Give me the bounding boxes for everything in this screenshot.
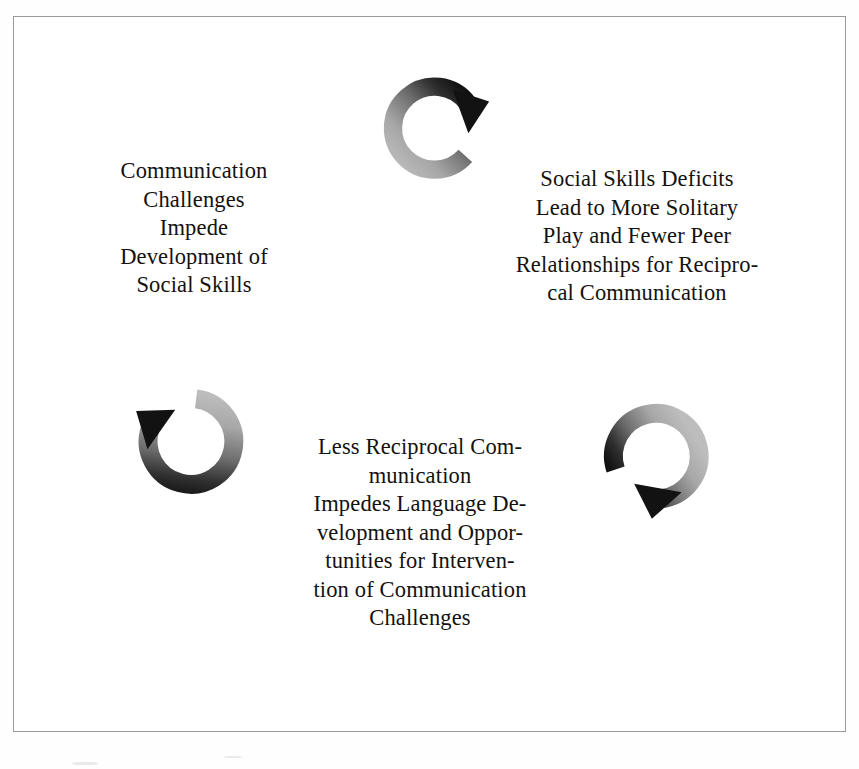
scanned-page: Communication Challenges Impede Developm…: [0, 0, 859, 769]
circular-arrow-icon-top: [369, 65, 497, 187]
circular-arrow-icon-bottom-left: [127, 381, 253, 507]
node-text-social-skills-deficits: Social Skills Deficits Lead to More Soli…: [497, 165, 777, 308]
node-text-communication-challenges: Communication Challenges Impede Developm…: [83, 157, 305, 300]
scan-artifact: [224, 756, 242, 758]
node-text-less-reciprocal-communication: Less Reciprocal Com- munication Impedes …: [286, 433, 554, 633]
circular-arrow-icon-bottom-right: [595, 393, 723, 519]
figure-frame: Communication Challenges Impede Developm…: [13, 16, 846, 732]
scan-artifact: [72, 762, 98, 765]
